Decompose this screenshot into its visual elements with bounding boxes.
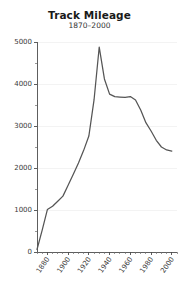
x-tick-label-1960: 1960 [118,256,135,275]
chart-figure: Track Mileage 1870–2000 0100020003000400… [0,0,179,294]
y-tick-label-2000: 2000 [14,164,32,172]
y-tick-label-5000: 5000 [14,38,32,46]
y-tick-label-4000: 4000 [14,80,32,88]
track-mileage-line [37,47,172,249]
y-tick-label-3000: 3000 [14,122,32,130]
x-axis-tick-labels: 1880190019201940196019802000 [35,256,176,275]
x-tick-label-2000: 2000 [159,256,176,275]
y-axis-tick-labels: 010002000300040005000 [14,38,32,256]
x-tick-label-1900: 1900 [55,256,72,275]
x-tick-label-1920: 1920 [76,256,93,275]
x-tick-label-1940: 1940 [97,256,114,275]
x-tick-label-1980: 1980 [138,256,155,275]
x-tick-label-1880: 1880 [35,256,52,275]
y-tick-label-1000: 1000 [14,206,32,214]
y-tick-label-0: 0 [28,248,32,256]
gridlines [37,42,177,210]
chart-plot-area: 010002000300040005000 188019001920194019… [0,0,179,294]
